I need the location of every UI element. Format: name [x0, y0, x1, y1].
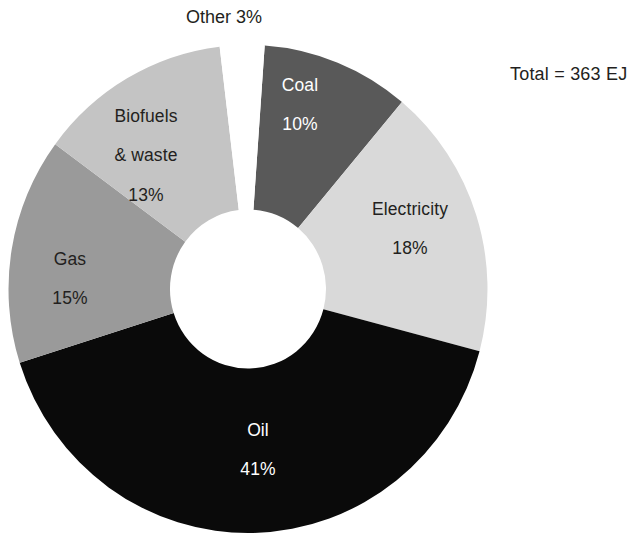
donut-chart: Coal 10% Electricity 18% Oil 41% Gas 15%… [0, 0, 642, 548]
slice-label-other-value: 3% [236, 7, 262, 27]
total-annotation: Total = 363 EJ [510, 64, 627, 85]
slice-oil[interactable] [20, 309, 480, 533]
slice-label-other-name: Other [186, 7, 231, 27]
slice-label-other: Other3% [186, 7, 262, 28]
donut-slices [9, 45, 488, 533]
